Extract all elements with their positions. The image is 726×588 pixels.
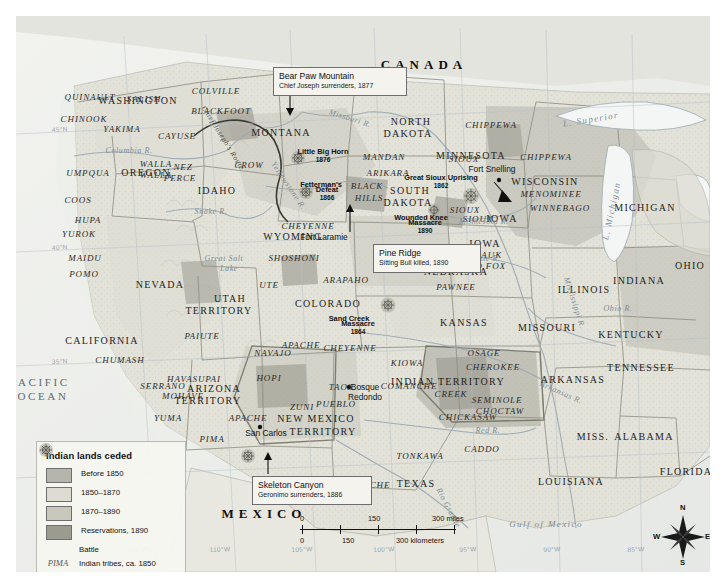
scale-miles-tick-1: 150: [368, 514, 380, 523]
scale-miles-labels: 0 150 300 miles: [300, 514, 490, 525]
scale-miles-bar: [300, 525, 490, 534]
legend-item-2[interactable]: 1870–1890: [46, 506, 176, 521]
legend-label: Before 1850: [81, 468, 123, 478]
legend-label: Battle: [79, 544, 99, 554]
legend-swatch: [46, 468, 72, 483]
scale-km-tick-0: 0: [300, 536, 304, 545]
legend-label: Reservations, 1890: [81, 525, 148, 535]
legend-title: Indian lands ceded: [46, 450, 176, 461]
legend-item-1[interactable]: 1850–1870: [46, 487, 176, 502]
scale-km-tick-1: 150: [342, 536, 354, 545]
compass-east: E: [705, 532, 710, 541]
legend-item-4[interactable]: Battle: [46, 544, 176, 554]
callout-pine-ridge[interactable]: Pine RidgeSitting Bull killed, 1890: [373, 244, 481, 273]
compass-west: W: [653, 532, 660, 541]
compass-north: N: [680, 503, 685, 512]
legend-item-0[interactable]: Before 1850: [46, 468, 176, 483]
legend-item-3[interactable]: Reservations, 1890: [46, 525, 176, 540]
scale-miles-tick-0: 0: [300, 514, 304, 523]
callout-subtitle: Chief Joseph surrenders, 1877: [279, 82, 401, 91]
legend-swatch: [46, 506, 72, 521]
callout-subtitle: Geronimo surrenders, 1886: [258, 491, 366, 500]
scale-km-labels: 0 150 300 kilometers: [300, 536, 490, 547]
callout-bear-paw-mountain[interactable]: Bear Paw MountainChief Joseph surrenders…: [273, 67, 407, 96]
callout-subtitle: Sitting Bull killed, 1890: [379, 259, 475, 268]
legend-rows: Before 18501850–18701870–1890Reservation…: [46, 468, 176, 569]
legend-swatch: [46, 525, 72, 540]
callout-title: Skeleton Canyon: [258, 480, 366, 490]
legend-label: Indian tribes, ca. 1850: [79, 558, 156, 568]
map-legend[interactable]: Indian lands ceded Before 18501850–18701…: [36, 441, 186, 572]
callout-title: Bear Paw Mountain: [279, 71, 401, 81]
legend-tribe-sample: PIMA: [46, 558, 70, 568]
compass-rose: N E S W: [652, 503, 710, 569]
legend-label: 1850–1870: [81, 487, 120, 497]
legend-swatch: [46, 487, 72, 502]
legend-label: 1870–1890: [81, 506, 120, 516]
legend-item-5[interactable]: PIMAIndian tribes, ca. 1850: [46, 558, 176, 568]
callout-skeleton-canyon[interactable]: Skeleton CanyonGeronimo surrenders, 1886: [252, 476, 372, 505]
scale-bars: 0 150 300 miles 0 150 300 kilometers: [300, 514, 490, 547]
compass-south: S: [680, 558, 685, 567]
scale-km-tick-2: 300 kilometers: [396, 536, 444, 545]
map-page: CANADAMEXICOPACIFICOCEANGulf of MexicoWA…: [0, 0, 726, 588]
map-canvas[interactable]: CANADAMEXICOPACIFICOCEANGulf of MexicoWA…: [16, 16, 710, 572]
callout-title: Pine Ridge: [379, 248, 475, 258]
scale-miles-tick-2: 300 miles: [432, 514, 464, 523]
